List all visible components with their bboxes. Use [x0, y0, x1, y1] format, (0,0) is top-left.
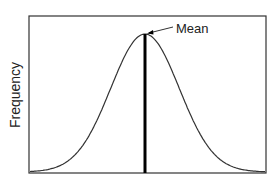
chart: Mean Frequency: [0, 0, 280, 183]
normal-curve: [30, 34, 265, 172]
arrow-head-icon: [147, 30, 154, 35]
y-axis-label: Frequency: [7, 62, 23, 128]
mean-annotation: Mean: [176, 21, 209, 36]
plot-frame: [29, 16, 266, 173]
